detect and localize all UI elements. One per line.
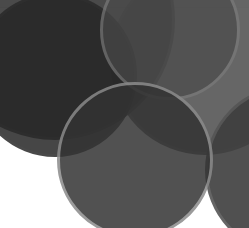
abstract-circles-image [0, 0, 249, 228]
circle-bottom-center [57, 82, 213, 228]
